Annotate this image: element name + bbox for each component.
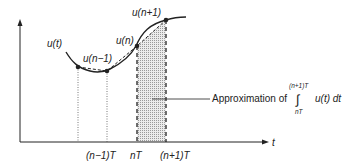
annotation-text: Approximation of xyxy=(212,93,287,104)
y-axis-arrow-icon xyxy=(18,19,23,26)
tick-n-minus-1-T: (n−1)T xyxy=(86,150,117,161)
sample-point-u-n xyxy=(135,44,140,49)
label-u-n-plus-1: u(n+1) xyxy=(132,7,161,18)
label-u-n: u(n) xyxy=(116,35,134,46)
integrand: u(t) dt xyxy=(315,93,342,104)
x-axis-arrow-icon xyxy=(262,140,269,145)
sampled-integration-diagram: u(t) u(n−1) u(n) u(n+1) (n−1)T nT (n+1)T… xyxy=(0,0,362,166)
tick-n-T: nT xyxy=(130,150,143,161)
integral-sign: ∫ xyxy=(295,92,301,107)
approximation-area xyxy=(137,20,166,142)
sample-point-u-n-plus-1 xyxy=(164,18,169,23)
label-u-t: u(t) xyxy=(47,38,62,49)
sample-point xyxy=(76,65,81,70)
sample-point-u-n-minus-1 xyxy=(105,69,110,74)
y-axis xyxy=(18,19,23,142)
integral-lower-limit: nT xyxy=(295,108,304,115)
tick-n-plus-1-T: (n+1)T xyxy=(160,150,191,161)
x-axis-label: t xyxy=(272,137,276,148)
integral-upper-limit: (n+1)T xyxy=(289,82,309,90)
label-u-n-minus-1: u(n−1) xyxy=(83,53,112,64)
